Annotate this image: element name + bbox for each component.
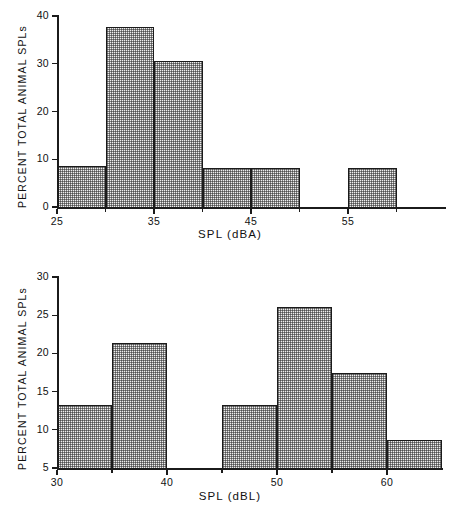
y-axis-tick [52,276,57,277]
x-axis-tick [153,209,154,214]
histogram-bar [251,168,300,209]
histogram-bar [154,61,203,208]
y-axis-tick [52,467,57,468]
y-axis-spine [57,15,59,208]
x-axis-minor-tick [221,470,222,474]
x-axis-minor-tick [111,470,112,474]
y-axis-tick-label: 15 [19,385,49,397]
x-axis-label: SPL (dBA) [0,228,460,240]
y-axis-tick-label: 25 [19,308,49,320]
x-axis-tick [276,470,277,475]
x-axis-label-text: SPL (dBA) [198,228,262,240]
chart-panel-spl-dbl: PERCENT TOTAL ANIMAL SPLs 51015202530304… [0,262,460,524]
x-axis-minor-tick [396,209,397,213]
x-axis-tick [386,470,387,475]
x-axis-minor-tick [331,470,332,474]
x-axis-label: SPL (dBL) [0,490,460,502]
x-axis-label-text: SPL (dBL) [199,490,262,502]
y-axis-tick [52,111,57,112]
y-axis-tick-label: 0 [19,200,49,212]
x-axis-tick [250,209,251,214]
histogram-bar [57,166,106,209]
y-axis-tick-label: 10 [19,152,49,164]
y-axis-tick [52,353,57,354]
x-axis-tick-label: 40 [152,476,182,488]
histogram-bar [387,440,442,469]
histogram-bar [57,405,112,469]
y-axis-tick-label: 20 [19,105,49,117]
x-axis-tick [56,470,57,475]
x-axis-spine [57,468,443,470]
y-axis-tick-label: 20 [19,346,49,358]
y-axis-tick [52,206,57,207]
x-axis-tick-label: 35 [139,215,169,227]
y-axis-tick [52,429,57,430]
x-axis-tick-label: 55 [333,215,363,227]
x-axis-tick [166,470,167,475]
x-axis-tick-label: 60 [372,476,402,488]
y-axis-tick [52,63,57,64]
y-axis-tick-label: 40 [19,9,49,21]
x-axis-tick-label: 30 [42,476,72,488]
y-axis-spine [57,276,59,469]
y-axis-tick-label: 30 [19,270,49,282]
x-axis-minor-tick [105,209,106,213]
plot-area: 5101520253030405060 [57,277,442,468]
histogram-bar [332,373,387,470]
x-axis-minor-tick [299,209,300,213]
histogram-bar [222,405,277,469]
histogram-bar [106,27,155,209]
histogram-bar [348,168,397,209]
y-axis-tick [52,315,57,316]
y-axis-tick [52,159,57,160]
x-axis-tick-label: 50 [262,476,292,488]
figure-two-histograms: PERCENT TOTAL ANIMAL SPLs 01020304025354… [0,0,460,524]
chart-panel-spl-dba: PERCENT TOTAL ANIMAL SPLs 01020304025354… [0,0,460,262]
plot-area: 01020304025354555 [57,16,445,207]
y-axis-tick-label: 5 [19,461,49,473]
histogram-bar [203,168,252,209]
y-axis-tick-label: 10 [19,423,49,435]
y-axis-tick [52,391,57,392]
histogram-bar [112,343,167,469]
x-axis-tick [56,209,57,214]
y-axis-tick [52,15,57,16]
x-axis-tick-label: 45 [236,215,266,227]
y-axis-tick-label: 30 [19,57,49,69]
x-axis-tick-label: 25 [42,215,72,227]
x-axis-tick [347,209,348,214]
x-axis-minor-tick [202,209,203,213]
histogram-bar [277,307,332,470]
y-axis-label: PERCENT TOTAL ANIMAL SPLs [16,25,28,208]
